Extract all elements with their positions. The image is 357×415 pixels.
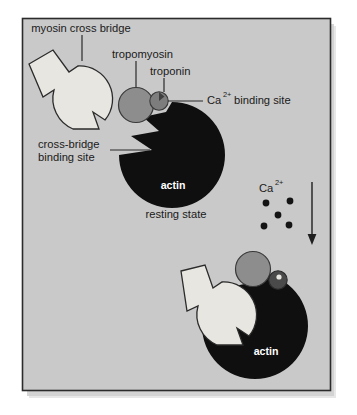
svg-text:2+: 2+	[223, 90, 231, 99]
tropomyosin-molecule-bottom	[236, 252, 271, 287]
label-calcium: Ca	[259, 182, 274, 194]
actin-myosin-diagram: actin myosin cross bridge tropomyosin tr…	[0, 0, 357, 415]
calcium-dot	[275, 212, 282, 219]
actin-label-bottom: actin	[254, 345, 279, 357]
svg-text:binding site: binding site	[38, 151, 95, 163]
svg-text:Ca: Ca	[207, 94, 222, 106]
troponin-molecule-top	[150, 92, 168, 110]
actin-label-top: actin	[161, 179, 186, 191]
calcium-dot	[287, 198, 294, 205]
troponin-molecule-bottom	[269, 271, 287, 289]
calcium-dot	[286, 222, 293, 229]
bound-calcium-ion	[276, 274, 281, 279]
svg-text:cross-bridge: cross-bridge	[38, 138, 100, 150]
label-troponin: troponin	[150, 65, 190, 77]
label-myosin-cross-bridge: myosin cross bridge	[31, 22, 130, 34]
figure-root: actin myosin cross bridge tropomyosin tr…	[0, 0, 357, 415]
svg-text:binding site: binding site	[234, 94, 291, 106]
label-tropomyosin: tropomyosin	[112, 48, 173, 60]
label-cross-bridge-binding-site: cross-bridge binding site	[38, 138, 100, 163]
label-calcium-superscript: 2+	[275, 178, 283, 187]
label-resting-state: resting state	[146, 208, 207, 220]
calcium-dot	[261, 223, 268, 230]
tropomyosin-molecule-top	[119, 88, 154, 123]
calcium-dot	[263, 200, 270, 207]
